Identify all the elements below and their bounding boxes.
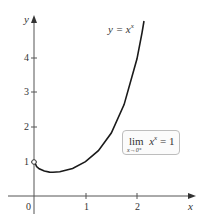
y-axis-arrow-icon xyxy=(31,15,37,23)
function-label-exponent: x xyxy=(131,22,134,30)
lim-word: lim xyxy=(129,135,144,147)
y-axis-label: y xyxy=(23,13,29,25)
lim-result: = 1 xyxy=(157,135,174,147)
y-tick-label-4: 4 xyxy=(24,52,29,63)
function-label: y = xx xyxy=(108,22,134,35)
x-axis-label: x xyxy=(187,200,193,212)
open-point-marker xyxy=(32,160,37,165)
x-tick-label-1: 1 xyxy=(84,201,89,212)
function-label-base: y = x xyxy=(108,23,131,35)
limit-annotation-box: lim xx = 1 x→0⁺ xyxy=(122,130,180,155)
limit-expression: lim xx = 1 xyxy=(129,134,174,147)
origin-label: 0 xyxy=(26,201,31,212)
y-tick-label-2: 2 xyxy=(24,121,29,132)
y-tick-label-3: 3 xyxy=(24,86,29,97)
y-tick-label-1: 1 xyxy=(24,156,29,167)
x-axis-arrow-icon xyxy=(188,193,196,199)
x-tick-label-2: 2 xyxy=(135,201,140,212)
chart-canvas: 0 1 2 1 2 3 4 y x xyxy=(0,0,206,224)
limit-subscript: x→0⁺ xyxy=(127,146,142,153)
